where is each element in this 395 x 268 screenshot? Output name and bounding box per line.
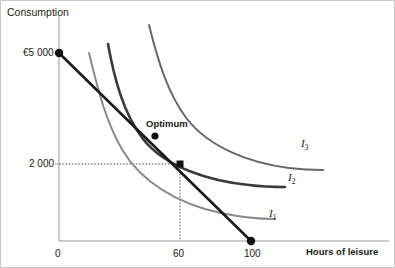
x-tick-label-0: 0 bbox=[55, 249, 61, 259]
x-tick-label-60: 60 bbox=[173, 249, 184, 259]
optimum-coordinate-marker bbox=[177, 161, 184, 168]
budget-y-intercept-point bbox=[55, 49, 63, 57]
x-axis-title: Hours of leisure bbox=[306, 247, 378, 257]
y-axis-title: Consumption bbox=[7, 7, 69, 18]
indifference-curve-i3 bbox=[149, 25, 323, 170]
curve-label-i3-sub: 3 bbox=[305, 143, 309, 152]
optimum-point bbox=[151, 132, 158, 139]
budget-x-intercept-point bbox=[247, 237, 255, 245]
curve-label-i2: I2 bbox=[288, 171, 295, 186]
curve-label-i3: I3 bbox=[301, 137, 308, 152]
curve-label-i1-sub: 1 bbox=[273, 213, 277, 222]
y-tick-label-5000: €5 000 bbox=[23, 48, 54, 58]
plot-area bbox=[1, 1, 395, 268]
indifference-curve-i1 bbox=[89, 53, 275, 219]
x-tick-label-100: 100 bbox=[244, 249, 261, 259]
curve-label-i1: I1 bbox=[269, 207, 276, 222]
indifference-curve-figure: Consumption Hours of leisure €5 000 2 00… bbox=[0, 0, 395, 268]
curve-label-i2-sub: 2 bbox=[292, 177, 296, 186]
y-tick-label-2000: 2 000 bbox=[29, 159, 54, 169]
optimum-annotation-label: Optimum bbox=[146, 119, 188, 129]
